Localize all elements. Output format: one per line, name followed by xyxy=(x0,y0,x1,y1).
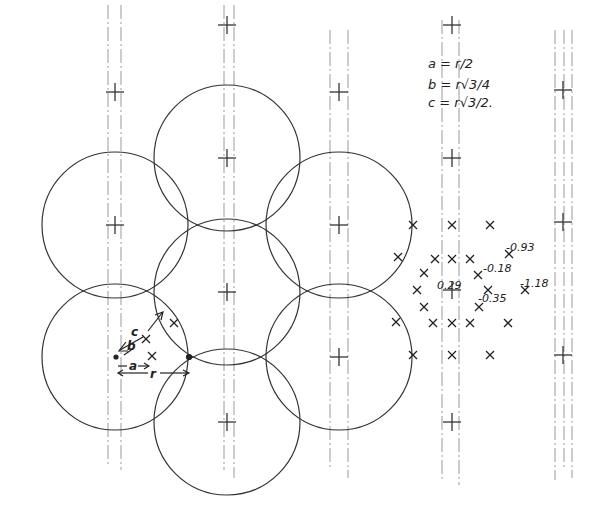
x-marker-icon xyxy=(392,318,400,326)
tangent-point xyxy=(187,355,192,360)
x-marker-icon xyxy=(170,319,178,327)
x-marker-icon xyxy=(148,352,156,360)
value-label: -0.18 xyxy=(483,262,511,275)
x-marker-icon xyxy=(466,255,474,263)
x-marker-icon xyxy=(431,255,439,263)
grid-point-markers xyxy=(142,221,529,360)
diagram-canvas: c b a r a = r/2 b = r√3/4 c = r√3/2. 0.2… xyxy=(0,0,612,515)
legend-a: a = r/2 xyxy=(428,56,473,71)
value-label: 0.29 xyxy=(437,279,462,292)
b-label: b xyxy=(127,339,136,353)
center-lines xyxy=(108,5,572,485)
x-marker-icon xyxy=(409,351,417,359)
x-marker-icon xyxy=(429,319,437,327)
crosshair-icon xyxy=(443,16,461,34)
crosshair-icon xyxy=(554,213,572,231)
x-marker-icon xyxy=(409,221,417,229)
x-marker-icon xyxy=(448,351,456,359)
legend: a = r/2 b = r√3/4 c = r√3/2. xyxy=(428,56,493,110)
x-marker-icon xyxy=(420,303,428,311)
crosshair-icon xyxy=(218,283,236,301)
x-marker-icon xyxy=(142,335,150,343)
x-marker-icon xyxy=(504,319,512,327)
x-marker-icon xyxy=(448,319,456,327)
crosshair-icon xyxy=(218,413,236,431)
r-label: r xyxy=(150,367,157,381)
crosshair-icon xyxy=(218,149,236,167)
x-marker-icon xyxy=(413,286,421,294)
crosshair-icon xyxy=(554,346,572,364)
legend-c: c = r√3/2. xyxy=(428,95,493,110)
crosshair-icon xyxy=(443,413,461,431)
center-crosshairs xyxy=(106,16,572,431)
x-marker-icon xyxy=(448,255,456,263)
crosshair-icon xyxy=(443,149,461,167)
value-label: -0.93 xyxy=(506,241,534,254)
crosshair-icon xyxy=(330,216,348,234)
crosshair-icon xyxy=(218,16,236,34)
crosshair-icon xyxy=(330,348,348,366)
origin-point xyxy=(114,355,118,359)
a-label: a xyxy=(129,359,137,373)
legend-b: b = r√3/4 xyxy=(428,77,490,92)
value-labels: 0.29-0.18-0.93-1.18-0.35 xyxy=(437,241,548,305)
crosshair-icon xyxy=(330,83,348,101)
c-label: c xyxy=(131,325,138,339)
x-marker-icon xyxy=(420,269,428,277)
value-label: -0.35 xyxy=(478,292,506,305)
x-marker-icon xyxy=(394,253,402,261)
x-marker-icon xyxy=(466,319,474,327)
value-label: -1.18 xyxy=(520,277,548,290)
x-marker-icon xyxy=(448,221,456,229)
x-marker-icon xyxy=(474,271,482,279)
crosshair-icon xyxy=(554,81,572,99)
x-marker-icon xyxy=(486,351,494,359)
x-marker-icon xyxy=(486,221,494,229)
